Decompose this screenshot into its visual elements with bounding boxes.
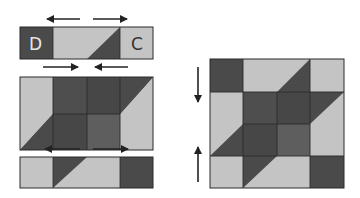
quilt-block-diagram: D C xyxy=(0,0,360,198)
assembled-block xyxy=(198,59,344,188)
label-d: D xyxy=(29,34,42,54)
top-strip: D C xyxy=(20,19,153,59)
middle-block xyxy=(20,67,153,150)
bottom-strip xyxy=(20,149,153,188)
label-c: C xyxy=(131,34,143,54)
